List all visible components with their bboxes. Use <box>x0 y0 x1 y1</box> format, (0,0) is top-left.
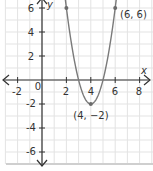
y-axis-label: y <box>46 0 54 10</box>
point-6-6 <box>113 6 117 10</box>
x-tick-label: 6 <box>112 86 118 97</box>
y-tick-label: 4 <box>28 27 34 38</box>
point-2-6 <box>64 6 68 10</box>
parabola-graph: -2 2 4 6 8 0 6 4 2 -2 -4 -6 x y (6, 6) (… <box>0 0 153 171</box>
point-label-6-6: (6, 6) <box>120 9 147 20</box>
x-tick-label: 4 <box>88 86 94 97</box>
x-tick-label: 2 <box>63 86 69 97</box>
y-tick-label: 2 <box>28 51 34 62</box>
y-tick-label: -2 <box>26 98 36 109</box>
point-label-vertex: (4, −2) <box>73 110 108 121</box>
y-tick-label: -4 <box>26 122 36 133</box>
x-tick-label: 8 <box>136 86 142 97</box>
origin-label: 0 <box>35 81 41 92</box>
point-vertex-4-neg2 <box>89 102 93 106</box>
x-axis-label: x <box>140 65 147 76</box>
y-tick-label: 6 <box>28 3 34 14</box>
x-axis <box>3 75 150 85</box>
y-tick-label: -6 <box>26 146 36 157</box>
x-tick-label: -2 <box>12 86 22 97</box>
